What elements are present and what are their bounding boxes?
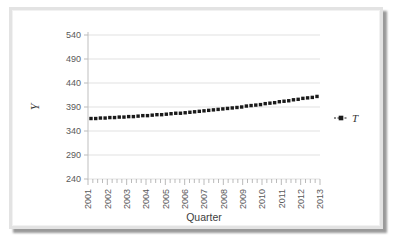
data-point-marker: [226, 107, 229, 110]
data-point-marker: [118, 115, 121, 118]
chart-screenshot: 240290340390440490540 200120022003200420…: [0, 0, 399, 246]
data-point-marker: [188, 111, 191, 114]
chart-canvas: 240290340390440490540 200120022003200420…: [9, 7, 383, 229]
data-point-marker: [127, 115, 130, 118]
data-point-marker: [254, 103, 257, 106]
gridlines-group: [88, 35, 320, 179]
data-point-marker: [108, 116, 111, 119]
legend[interactable]: T: [334, 112, 359, 124]
data-point-marker: [231, 106, 234, 109]
data-point-marker: [212, 108, 215, 111]
data-point-marker: [202, 109, 205, 112]
x-tick-label: 2005: [161, 189, 171, 209]
y-tick-label: 290: [66, 150, 81, 160]
data-point-marker: [132, 115, 135, 118]
data-point-marker: [198, 110, 201, 113]
data-point-marker: [94, 117, 97, 120]
data-point-marker: [221, 107, 224, 110]
x-tick-label: 2004: [141, 189, 151, 209]
data-point-marker: [301, 97, 304, 100]
data-point-marker: [240, 105, 243, 108]
y-tick-label: 390: [66, 102, 81, 112]
x-axis-title: Quarter: [186, 211, 222, 223]
data-point-marker: [216, 108, 219, 111]
data-point-marker: [141, 114, 144, 117]
x-tick-label: 2006: [180, 189, 190, 209]
legend-series-label: T: [352, 112, 359, 124]
chart-svg: 240290340390440490540 200120022003200420…: [9, 7, 383, 229]
data-point-marker: [122, 115, 125, 118]
data-point-marker: [273, 101, 276, 104]
data-point-marker: [179, 112, 182, 115]
data-point-marker: [169, 112, 172, 115]
x-tick-labels-group: 2001200220032004200520062007200820092010…: [83, 189, 325, 209]
y-tick-label: 490: [66, 54, 81, 64]
data-point-marker: [268, 101, 271, 104]
data-point-marker: [282, 100, 285, 103]
data-point-marker: [249, 104, 252, 107]
data-point-marker: [292, 98, 295, 101]
data-point-marker: [136, 114, 139, 117]
x-tick-label: 2008: [219, 189, 229, 209]
data-point-marker: [245, 104, 248, 107]
data-point-marker: [174, 112, 177, 115]
y-tick-labels-group: 240290340390440490540: [66, 30, 81, 184]
data-point-marker: [311, 96, 314, 99]
data-point-marker: [89, 117, 92, 120]
y-tick-label: 540: [66, 30, 81, 40]
x-tick-label: 2001: [83, 189, 93, 209]
x-tick-label: 2009: [238, 189, 248, 209]
y-axis-title: Y: [28, 102, 42, 110]
x-tick-label: 2012: [296, 189, 306, 209]
data-point-marker: [264, 102, 267, 105]
y-tick-label: 440: [66, 78, 81, 88]
x-tick-label: 2011: [277, 189, 287, 208]
data-point-marker: [165, 113, 168, 116]
data-point-marker: [207, 109, 210, 112]
data-point-marker: [193, 110, 196, 113]
x-tick-label: 2003: [122, 189, 132, 209]
x-tick-marks-group: [88, 179, 320, 185]
data-point-marker: [160, 113, 163, 116]
data-point-marker: [151, 113, 154, 116]
data-point-marker: [103, 116, 106, 119]
x-tick-label: 2007: [199, 189, 209, 209]
x-tick-label: 2010: [257, 189, 267, 209]
data-point-marker: [183, 111, 186, 114]
x-tick-label: 2013: [315, 189, 325, 209]
x-tick-label: 2002: [103, 189, 113, 209]
series-markers-group: [89, 95, 318, 120]
data-point-marker: [278, 100, 281, 103]
legend-series-marker: [339, 116, 344, 121]
data-point-marker: [146, 114, 149, 117]
y-tick-label: 340: [66, 126, 81, 136]
data-point-marker: [306, 96, 309, 99]
y-tick-label: 240: [66, 174, 81, 184]
data-point-marker: [99, 116, 102, 119]
data-point-marker: [259, 103, 262, 106]
data-point-marker: [315, 95, 318, 98]
data-point-marker: [235, 106, 238, 109]
data-point-marker: [113, 116, 116, 119]
data-point-marker: [287, 99, 290, 102]
y-tick-marks-group: [84, 35, 88, 179]
data-point-marker: [155, 113, 158, 116]
data-point-marker: [296, 98, 299, 101]
